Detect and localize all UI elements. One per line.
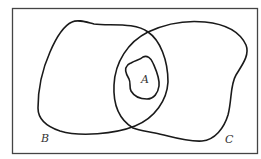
set-a-label: A [140,73,149,86]
set-b-label: B [40,132,49,145]
set-c-label: C [225,133,234,146]
universe-rectangle [13,9,258,154]
venn-diagram: A B C [0,0,261,159]
